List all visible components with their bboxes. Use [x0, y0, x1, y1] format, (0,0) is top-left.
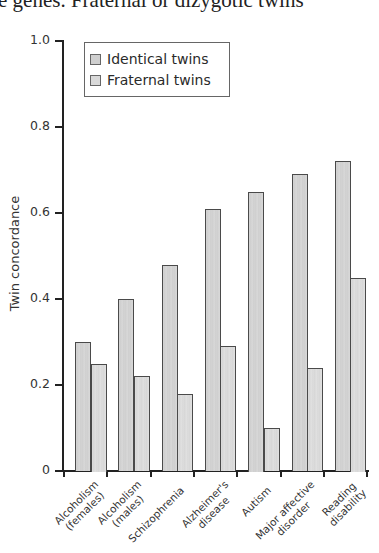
- x-tick: [323, 470, 325, 477]
- legend-label: Fraternal twins: [107, 72, 211, 88]
- y-tick-label: 0.8: [20, 118, 50, 133]
- fraternal-bar: [264, 428, 280, 471]
- identical-bar: [335, 161, 351, 471]
- twin-concordance-chart: Twin concordance 00.20.40.60.81.0 Alcoho…: [0, 0, 379, 553]
- fraternal-bar: [177, 394, 193, 471]
- identical-swatch-icon: [90, 54, 101, 65]
- legend-label: Identical twins: [107, 51, 209, 67]
- legend-item-fraternal: Fraternal twins: [90, 71, 211, 89]
- x-tick: [193, 470, 195, 477]
- x-tick: [366, 470, 368, 477]
- y-tick: [55, 298, 63, 300]
- x-tick-label: Readingdisability: [318, 478, 368, 528]
- y-tick: [55, 384, 63, 386]
- identical-bar: [248, 192, 264, 472]
- x-tick-label: Alcoholism(females): [52, 478, 109, 535]
- legend-item-identical: Identical twins: [90, 50, 209, 68]
- identical-bar: [205, 209, 221, 471]
- y-tick-label: 1.0: [20, 32, 50, 47]
- fraternal-bar: [91, 364, 107, 472]
- fraternal-bar: [134, 376, 150, 471]
- y-tick: [55, 126, 63, 128]
- x-tick-label: Autism: [239, 484, 273, 518]
- x-tick: [150, 470, 152, 477]
- y-tick: [55, 40, 63, 42]
- y-axis: [62, 40, 64, 472]
- y-tick-label: 0.6: [20, 204, 50, 219]
- fraternal-bar: [350, 278, 366, 472]
- x-tick: [236, 470, 238, 477]
- y-tick: [55, 470, 63, 472]
- x-tick: [280, 470, 282, 477]
- identical-bar: [118, 299, 134, 471]
- y-tick-label: 0.2: [20, 376, 50, 391]
- fraternal-bar: [220, 346, 236, 471]
- x-tick-label: Alzheimer'sdisease: [179, 478, 239, 538]
- fraternal-swatch-icon: [90, 75, 101, 86]
- identical-bar: [75, 342, 91, 471]
- x-tick: [63, 470, 65, 477]
- identical-bar: [292, 174, 308, 471]
- y-tick-label: 0: [20, 462, 50, 477]
- identical-bar: [162, 265, 178, 471]
- fraternal-bar: [307, 368, 323, 471]
- y-tick-label: 0.4: [20, 290, 50, 305]
- y-tick: [55, 212, 63, 214]
- legend: Identical twins Fraternal twins: [84, 42, 230, 97]
